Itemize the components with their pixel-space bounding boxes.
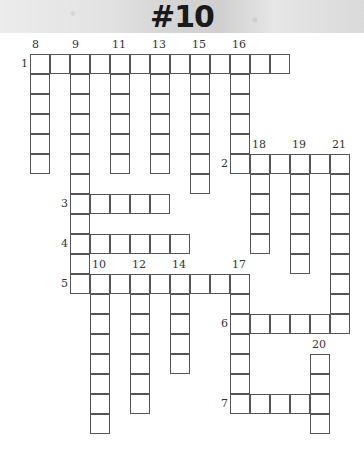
grid-cell[interactable] [230, 74, 250, 94]
grid-cell[interactable] [130, 374, 150, 394]
grid-cell[interactable] [90, 374, 110, 394]
grid-cell[interactable] [110, 54, 130, 74]
grid-cell[interactable] [130, 394, 150, 414]
grid-cell[interactable] [310, 394, 330, 414]
grid-cell[interactable] [70, 254, 90, 274]
grid-cell[interactable] [270, 314, 290, 334]
grid-cell[interactable] [70, 154, 90, 174]
grid-cell[interactable] [230, 94, 250, 114]
grid-cell[interactable] [150, 134, 170, 154]
grid-cell[interactable] [250, 154, 270, 174]
grid-cell[interactable] [90, 274, 110, 294]
grid-cell[interactable] [110, 234, 130, 254]
grid-cell[interactable] [170, 234, 190, 254]
grid-cell[interactable] [70, 74, 90, 94]
grid-cell[interactable] [70, 54, 90, 74]
grid-cell[interactable] [330, 174, 350, 194]
grid-cell[interactable] [90, 294, 110, 314]
grid-cell[interactable] [190, 94, 210, 114]
grid-cell[interactable] [90, 234, 110, 254]
grid-cell[interactable] [110, 74, 130, 94]
grid-cell[interactable] [130, 274, 150, 294]
grid-cell[interactable] [230, 314, 250, 334]
grid-cell[interactable] [110, 134, 130, 154]
grid-cell[interactable] [330, 254, 350, 274]
grid-cell[interactable] [290, 194, 310, 214]
grid-cell[interactable] [270, 154, 290, 174]
grid-cell[interactable] [90, 54, 110, 74]
grid-cell[interactable] [230, 374, 250, 394]
grid-cell[interactable] [230, 294, 250, 314]
grid-cell[interactable] [230, 154, 250, 174]
grid-cell[interactable] [30, 54, 50, 74]
grid-cell[interactable] [70, 214, 90, 234]
grid-cell[interactable] [30, 154, 50, 174]
grid-cell[interactable] [90, 334, 110, 354]
grid-cell[interactable] [290, 234, 310, 254]
grid-cell[interactable] [70, 94, 90, 114]
grid-cell[interactable] [190, 54, 210, 74]
grid-cell[interactable] [330, 274, 350, 294]
grid-cell[interactable] [110, 94, 130, 114]
grid-cell[interactable] [150, 234, 170, 254]
grid-cell[interactable] [230, 354, 250, 374]
grid-cell[interactable] [90, 394, 110, 414]
grid-cell[interactable] [330, 294, 350, 314]
grid-cell[interactable] [230, 54, 250, 74]
grid-cell[interactable] [310, 314, 330, 334]
grid-cell[interactable] [130, 194, 150, 214]
grid-cell[interactable] [190, 174, 210, 194]
grid-cell[interactable] [190, 274, 210, 294]
grid-cell[interactable] [130, 354, 150, 374]
grid-cell[interactable] [290, 254, 310, 274]
grid-cell[interactable] [110, 274, 130, 294]
grid-cell[interactable] [30, 74, 50, 94]
grid-cell[interactable] [70, 114, 90, 134]
grid-cell[interactable] [170, 274, 190, 294]
grid-cell[interactable] [330, 154, 350, 174]
grid-cell[interactable] [230, 394, 250, 414]
grid-cell[interactable] [190, 134, 210, 154]
grid-cell[interactable] [230, 274, 250, 294]
grid-cell[interactable] [270, 54, 290, 74]
grid-cell[interactable] [170, 294, 190, 314]
grid-cell[interactable] [330, 234, 350, 254]
grid-cell[interactable] [290, 154, 310, 174]
grid-cell[interactable] [170, 354, 190, 374]
grid-cell[interactable] [250, 394, 270, 414]
grid-cell[interactable] [330, 214, 350, 234]
grid-cell[interactable] [290, 394, 310, 414]
grid-cell[interactable] [70, 134, 90, 154]
grid-cell[interactable] [250, 234, 270, 254]
grid-cell[interactable] [250, 194, 270, 214]
grid-cell[interactable] [230, 334, 250, 354]
grid-cell[interactable] [130, 294, 150, 314]
grid-cell[interactable] [310, 354, 330, 374]
grid-cell[interactable] [310, 374, 330, 394]
grid-cell[interactable] [90, 354, 110, 374]
grid-cell[interactable] [150, 94, 170, 114]
grid-cell[interactable] [210, 54, 230, 74]
grid-cell[interactable] [310, 154, 330, 174]
grid-cell[interactable] [310, 414, 330, 434]
grid-cell[interactable] [330, 194, 350, 214]
grid-cell[interactable] [150, 194, 170, 214]
grid-cell[interactable] [250, 214, 270, 234]
grid-cell[interactable] [150, 274, 170, 294]
grid-cell[interactable] [170, 314, 190, 334]
grid-cell[interactable] [190, 154, 210, 174]
grid-cell[interactable] [130, 314, 150, 334]
grid-cell[interactable] [250, 314, 270, 334]
grid-cell[interactable] [190, 74, 210, 94]
grid-cell[interactable] [170, 334, 190, 354]
grid-cell[interactable] [230, 134, 250, 154]
grid-cell[interactable] [170, 54, 190, 74]
grid-cell[interactable] [50, 54, 70, 74]
grid-cell[interactable] [150, 74, 170, 94]
grid-cell[interactable] [90, 314, 110, 334]
grid-cell[interactable] [250, 54, 270, 74]
grid-cell[interactable] [90, 194, 110, 214]
grid-cell[interactable] [250, 174, 270, 194]
grid-cell[interactable] [210, 274, 230, 294]
grid-cell[interactable] [90, 414, 110, 434]
